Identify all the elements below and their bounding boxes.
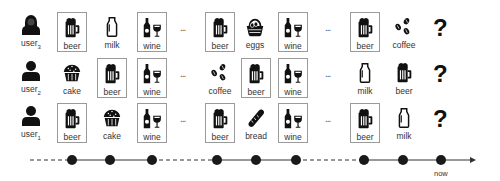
beer-icon	[355, 108, 375, 130]
milk-icon	[102, 16, 122, 38]
item-label: cake	[103, 131, 121, 141]
wine-icon	[141, 17, 163, 39]
item-milk: milk	[389, 103, 419, 143]
item-label: beer	[247, 87, 264, 97]
coffee-icon	[210, 63, 230, 83]
user-label: user3	[21, 38, 41, 50]
item-label: coffee	[392, 40, 415, 50]
item-eggs: eggs	[240, 12, 270, 52]
timeline: now	[0, 150, 500, 181]
sequence-row-user3: user3 beer milk wine ... beer eggs wine …	[0, 12, 500, 56]
item-beer: beer	[57, 12, 87, 52]
item-label: beer	[356, 132, 373, 142]
item-label: coffee	[208, 86, 231, 96]
ellipsis: ...	[325, 22, 330, 33]
item-label: wine	[143, 132, 160, 142]
ellipsis: ...	[325, 113, 330, 124]
item-beer: beer	[97, 58, 127, 98]
user-3: user3	[13, 12, 49, 56]
item-label: beer	[211, 132, 228, 142]
item-beer: beer	[241, 58, 271, 98]
user-avatar-icon	[19, 58, 43, 82]
item-beer: beer	[57, 103, 87, 143]
item-label: wine	[143, 41, 160, 51]
item-wine: wine	[137, 103, 167, 143]
beer-icon	[210, 17, 230, 39]
item-label: wine	[284, 87, 301, 97]
item-cake: cake	[97, 103, 127, 143]
unknown-next-item: ?	[433, 60, 448, 88]
item-label: wine	[284, 41, 301, 51]
user-1: user1	[13, 103, 49, 147]
wine-icon	[141, 63, 163, 85]
arrow-head-icon	[470, 157, 476, 163]
item-wine: wine	[137, 12, 167, 52]
wine-icon	[282, 17, 304, 39]
item-label: beer	[63, 132, 80, 142]
item-label: wine	[143, 87, 160, 97]
sequence-row-user1: user1 beer cake wine ... beer bread wine…	[0, 103, 500, 147]
item-beer: beer	[205, 103, 235, 143]
item-label: beer	[211, 41, 228, 51]
milk-icon	[394, 107, 414, 129]
item-milk: milk	[97, 12, 127, 52]
timeline-axis	[0, 150, 500, 181]
item-beer: beer	[350, 12, 380, 52]
now-label: now	[434, 169, 448, 178]
item-label: beer	[395, 86, 412, 96]
item-milk: milk	[350, 58, 380, 98]
unknown-next-item: ?	[433, 14, 448, 42]
item-label: beer	[356, 41, 373, 51]
item-label: beer	[103, 87, 120, 97]
item-label: milk	[396, 131, 411, 141]
item-label: milk	[104, 40, 119, 50]
item-label: cake	[63, 86, 81, 96]
item-wine: wine	[137, 58, 167, 98]
item-label: beer	[63, 41, 80, 51]
item-label: milk	[357, 86, 372, 96]
beer-icon	[210, 108, 230, 130]
beer-icon	[62, 108, 82, 130]
beer-icon	[102, 63, 122, 85]
wine-icon	[282, 63, 304, 85]
user-avatar-icon	[19, 103, 43, 127]
user-2: user2	[13, 58, 49, 102]
item-label: wine	[284, 132, 301, 142]
beer-icon	[355, 17, 375, 39]
beer-icon	[62, 17, 82, 39]
item-wine: wine	[278, 103, 308, 143]
bread-icon	[245, 107, 267, 129]
ellipsis: ...	[325, 68, 330, 79]
wine-icon	[282, 108, 304, 130]
unknown-next-item: ?	[433, 105, 448, 133]
item-label: bread	[245, 131, 267, 141]
item-bread: bread	[241, 103, 271, 143]
beer-icon	[246, 63, 266, 85]
ellipsis: ...	[180, 113, 185, 124]
item-cake: cake	[57, 58, 87, 98]
eggs-icon	[244, 16, 266, 38]
wine-icon	[141, 108, 163, 130]
coffee-icon	[394, 17, 414, 37]
ellipsis: ...	[180, 68, 185, 79]
cake-icon	[61, 62, 83, 84]
sequence-row-user2: user2 cake beer wine ... coffee beer win…	[0, 58, 500, 102]
item-beer: beer	[205, 12, 235, 52]
beer-icon	[394, 62, 414, 84]
item-label: eggs	[246, 40, 264, 50]
item-wine: wine	[278, 12, 308, 52]
ellipsis: ...	[180, 22, 185, 33]
item-wine: wine	[278, 58, 308, 98]
item-beer: beer	[350, 103, 380, 143]
cake-icon	[101, 107, 123, 129]
user-label: user2	[21, 84, 41, 96]
milk-icon	[355, 62, 375, 84]
item-coffee: coffee	[389, 12, 419, 52]
item-beer: beer	[389, 58, 419, 98]
user-avatar-icon	[19, 12, 43, 36]
item-coffee: coffee	[205, 58, 235, 98]
user-label: user1	[21, 129, 41, 141]
